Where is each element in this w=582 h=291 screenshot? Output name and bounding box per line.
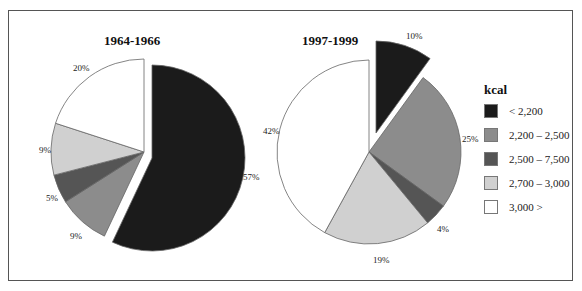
- legend-item-lt2200: < 2,200: [484, 104, 543, 118]
- slice-label-right-2200-2500: 25%: [462, 134, 479, 144]
- slice-label-right-2700-3000: 19%: [373, 255, 390, 265]
- legend-swatch: [484, 200, 498, 214]
- legend-label: 2,500 – 7,500: [509, 153, 570, 165]
- slice-label-left-2200-2500: 9%: [70, 231, 82, 241]
- pie-title-1964-1966: 1964-1966: [104, 33, 160, 49]
- pie-chart-1997-1999: [277, 41, 461, 244]
- legend-title: kcal: [484, 82, 507, 98]
- slice-label-right-2500-7500: 4%: [437, 224, 449, 234]
- legend-item-gt3000: 3,000 >: [484, 200, 543, 214]
- slice-label-left-gt3000: 20%: [73, 63, 90, 73]
- pie-chart-1964-1966: [51, 59, 245, 251]
- legend-swatch: [484, 104, 498, 118]
- legend-item-2500-7500: 2,500 – 7,500: [484, 152, 570, 166]
- legend-swatch: [484, 152, 498, 166]
- slice-label-left-2500-7500: 5%: [46, 193, 58, 203]
- legend-label: 2,700 – 3,000: [509, 177, 570, 189]
- legend-label: 3,000 >: [509, 201, 543, 213]
- slice-label-left-2700-3000: 9%: [39, 145, 51, 155]
- slice-label-left-lt2200: 57%: [243, 172, 260, 182]
- pie-title-1997-1999: 1997-1999: [302, 33, 358, 49]
- legend-swatch: [484, 176, 498, 190]
- legend-label: 2,200 – 2,500: [509, 129, 570, 141]
- slice-label-right-gt3000: 42%: [263, 126, 280, 136]
- legend-item-2200-2500: 2,200 – 2,500: [484, 128, 570, 142]
- legend-label: < 2,200: [509, 105, 543, 117]
- legend-item-2700-3000: 2,700 – 3,000: [484, 176, 570, 190]
- legend-swatch: [484, 128, 498, 142]
- pie-charts-canvas: [0, 0, 582, 291]
- slice-label-right-lt2200: 10%: [406, 31, 423, 41]
